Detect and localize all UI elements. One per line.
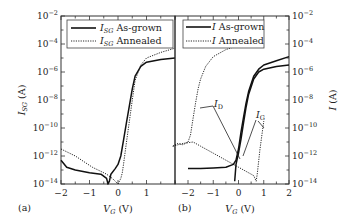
panel-a-legend: ISG As-grown ISG Annealed [67,20,173,48]
panel-b-legend: I As-grown I Annealed [183,20,264,48]
panel-b: 10−210−410−610−810−1010−1210−14 −2−1012 … [173,9,338,216]
y-tick-label: 10−10 [292,121,317,133]
y-tick-label: 10−8 [292,93,313,105]
x-tick-label: 1 [261,188,267,198]
x-tick-label: 0 [236,188,242,198]
panel-a-y-ticks: 10−210−410−610−810−1010−1210−14 [33,9,65,189]
panel-b-y-ticks: 10−210−410−610−810−1010−1210−14 [285,9,317,189]
panel-b-label: (b) [178,202,192,213]
x-tick-label: −2 [181,188,194,198]
panel-b-series [173,40,289,181]
x-tick-label: 1 [144,188,150,198]
annotation-id: ID [200,98,240,159]
y-tick-label: 10−2 [37,9,58,21]
x-tick-label: −2 [54,188,67,198]
y-tick-label: 10−12 [292,149,317,161]
panel-b-x-label: VG (V) [225,203,254,216]
legend-entry-as-grown: I As-grown [211,21,264,32]
figure: 10−210−410−610−810−1010−1210−14 −2−101 I… [0,0,345,224]
y-tick-label: 10−8 [37,93,58,105]
panel-a-y-label: ISG (A) [16,85,29,117]
series-line [235,65,289,181]
panel-a-x-label: VG (V) [103,203,132,216]
x-tick-label: −1 [83,188,96,198]
x-tick-label: 0 [115,188,121,198]
panel-a-label: (a) [18,202,31,213]
svg-text:IG: IG [255,109,265,122]
annotation-ig: IG [243,109,265,156]
y-tick-label: 10−4 [37,37,58,49]
series-line [61,58,175,184]
panel-b-y-label: I (A) [327,89,338,111]
y-tick-label: 10−4 [292,37,313,49]
y-tick-label: 10−14 [292,177,317,189]
series-line [173,121,264,181]
series-line [173,40,256,146]
x-tick-label: −1 [207,188,220,198]
panel-a: 10−210−410−610−810−1010−1210−14 −2−101 I… [16,9,175,216]
panel-a-series [61,48,175,184]
legend-entry-annealed: I Annealed [211,35,264,46]
y-tick-label: 10−2 [292,9,313,21]
y-tick-label: 10−6 [292,65,313,77]
y-tick-label: 10−12 [33,149,58,161]
y-tick-label: 10−6 [37,65,58,77]
x-tick-label: 2 [286,188,292,198]
y-tick-label: 10−10 [33,121,58,133]
